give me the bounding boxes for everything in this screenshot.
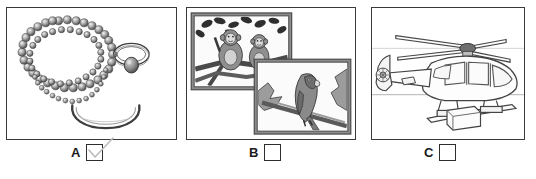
- answer-option-b[interactable]: B: [249, 144, 281, 161]
- image-panel-c: [371, 7, 525, 140]
- helicopter-illustration: [372, 8, 524, 139]
- check-icon: [84, 136, 116, 162]
- answer-letter-c: C: [424, 146, 433, 159]
- pearl-necklace: [18, 16, 117, 104]
- jewelry-illustration: [7, 8, 176, 139]
- checkbox-b[interactable]: [264, 144, 281, 161]
- gemstone-ring: [114, 43, 149, 73]
- bangle-bracelet: [72, 106, 139, 129]
- parrot-photo: [254, 59, 351, 134]
- answer-option-c[interactable]: C: [424, 144, 456, 161]
- answer-letter-a: A: [71, 146, 80, 159]
- answer-letter-b: B: [249, 146, 258, 159]
- question-sheet: A B C: [0, 0, 536, 179]
- checkbox-a[interactable]: [86, 144, 103, 161]
- image-panel-a: [6, 7, 177, 140]
- framed-photos-illustration: [187, 8, 355, 139]
- answer-option-a[interactable]: A: [71, 144, 103, 161]
- image-panel-b: [186, 7, 356, 140]
- checkbox-c[interactable]: [439, 144, 456, 161]
